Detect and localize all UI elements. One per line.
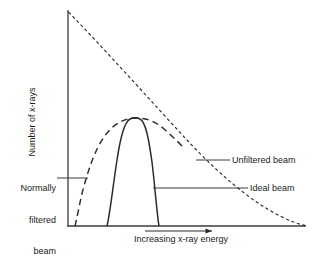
callout-unfiltered-beam: Unfiltered beam [232,155,296,166]
x-axis-title: Increasing x-ray energy [105,234,257,245]
callout-normally-filtered-beam: Normally filtered beam [2,162,56,257]
axes-group [67,10,306,226]
callout-normally-filtered-line-1: Normally [2,183,56,194]
callout-normally-filtered-line-2: filtered [2,215,56,226]
curve-unfiltered-beam [69,12,306,226]
callout-normally-filtered-line-3: beam [2,246,56,257]
curve-normally-filtered-beam [75,118,182,226]
xray-spectrum-figure: Number of x-rays Increasing x-ray energy… [0,0,312,257]
callout-ideal-beam: Ideal beam [250,183,295,194]
increasing-energy-arrow-icon [145,228,212,233]
curve-ideal-beam [107,118,159,226]
